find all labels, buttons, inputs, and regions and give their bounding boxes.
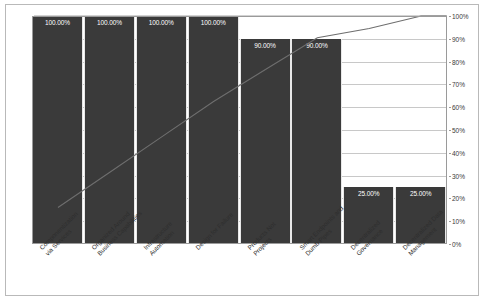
y-axis-tick-label: 10%	[452, 218, 465, 225]
y-axis-tick-mark	[449, 153, 451, 154]
y-axis-tick-label: 60%	[452, 104, 465, 111]
y-axis-tick-mark	[449, 62, 451, 63]
y-axis-tick-mark	[449, 130, 451, 131]
x-axis-category-labels: Componentizationvia ServicesOrganized Ar…	[32, 244, 447, 294]
y-axis-tick-label: 70%	[452, 81, 465, 88]
y-axis-tick-label: 30%	[452, 172, 465, 179]
y-axis-tick-label: 20%	[452, 195, 465, 202]
y-axis-tick-mark	[449, 107, 451, 108]
y-axis-tick-mark	[449, 39, 451, 40]
y-axis-tick-mark	[449, 84, 451, 85]
y-axis-tick-mark	[449, 16, 451, 17]
y-axis-tick-mark	[449, 221, 451, 222]
cumulative-line-path	[58, 16, 447, 208]
y-axis-tick-label: 0%	[452, 241, 461, 248]
y-axis-tick-label: 80%	[452, 58, 465, 65]
chart-frame: 100.00%100.00%100.00%100.00%90.00%90.00%…	[5, 4, 479, 296]
y-axis-tick-label: 40%	[452, 149, 465, 156]
y-axis-tick-label: 50%	[452, 127, 465, 134]
y-axis-tick-label: 90%	[452, 35, 465, 42]
plot-area: 100.00%100.00%100.00%100.00%90.00%90.00%…	[32, 16, 447, 244]
y-axis: 100%90%80%70%60%50%40%30%20%10%0%	[449, 16, 479, 244]
y-axis-tick-mark	[449, 198, 451, 199]
y-axis-tick-mark	[449, 176, 451, 177]
y-axis-tick-label: 100%	[452, 13, 469, 20]
y-axis-tick-mark	[449, 244, 451, 245]
cumulative-line-series	[32, 16, 447, 244]
